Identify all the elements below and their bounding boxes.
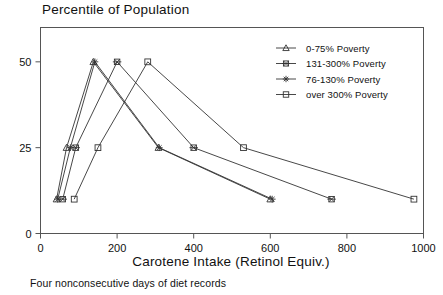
chart-plot-area: 02550 02004006008001000 0-75% Poverty131… <box>0 0 443 295</box>
legend-item: 76-130% Poverty <box>276 74 381 85</box>
x-tick-label: 200 <box>108 242 126 254</box>
series-line <box>63 62 332 199</box>
x-axis-tick-labels: 02004006008001000 <box>37 242 435 254</box>
legend-label: 131-300% Poverty <box>306 58 386 69</box>
x-axis-ticks <box>41 234 424 239</box>
x-axis-title: Carotene Intake (Retinol Equiv.) <box>132 254 330 269</box>
y-tick-label: 50 <box>19 56 31 68</box>
x-tick-label: 400 <box>185 242 203 254</box>
chart-container: Percentile of Population 02550 020040060… <box>0 0 443 295</box>
y-axis-tick-labels: 02550 <box>19 56 31 240</box>
series-triangle <box>53 58 274 201</box>
x-tick-label: 0 <box>37 242 43 254</box>
chart-footnote: Four nonconsecutive days of diet records <box>30 277 226 289</box>
x-tick-label: 1000 <box>411 242 435 254</box>
chart-legend: 0-75% Poverty131-300% Poverty76-130% Pov… <box>276 43 388 101</box>
legend-item: 131-300% Poverty <box>276 58 386 69</box>
series-boxed-x <box>58 59 335 202</box>
series-line <box>58 62 272 199</box>
y-tick-label: 25 <box>19 142 31 154</box>
legend-label: 0-75% Poverty <box>306 43 370 54</box>
y-axis-ticks <box>36 62 41 234</box>
y-tick-label: 0 <box>25 228 31 240</box>
legend-label: 76-130% Poverty <box>306 74 381 85</box>
legend-label: over 300% Poverty <box>306 89 388 100</box>
x-tick-label: 600 <box>261 242 279 254</box>
legend-item: over 300% Poverty <box>276 89 388 100</box>
legend-item: 0-75% Poverty <box>276 43 370 54</box>
x-tick-label: 800 <box>338 242 356 254</box>
